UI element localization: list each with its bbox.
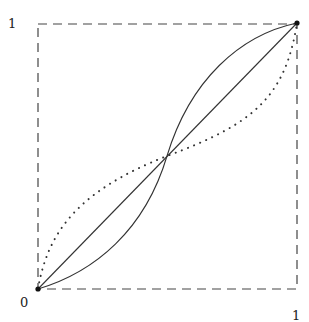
y-axis-label-one: 1 xyxy=(8,17,16,30)
diagram-canvas xyxy=(0,0,309,322)
top-right-point xyxy=(294,20,299,25)
x-axis-label-one: 1 xyxy=(292,309,300,322)
origin-point xyxy=(35,286,40,291)
origin-label-zero: 0 xyxy=(20,296,28,309)
